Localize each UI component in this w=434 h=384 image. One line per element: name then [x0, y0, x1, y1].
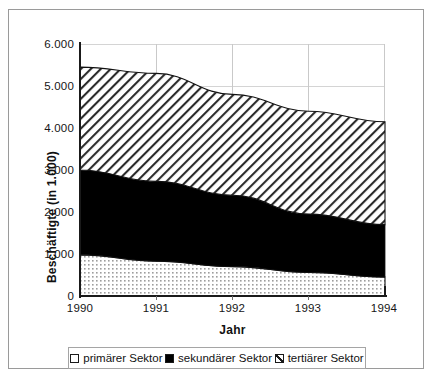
x-tick-mark-1991	[156, 296, 157, 300]
legend-item-sekundaerer-sektor[interactable]: sekundärer Sektor	[165, 352, 272, 364]
y-tick-0: 0	[67, 290, 74, 302]
y-tick-6000: 6.000	[44, 38, 74, 50]
y-axis-title: Beschäftigte (in 1.000)	[45, 112, 59, 322]
y-axis-title-holder: Beschäftigte (in 1.000)	[24, 60, 44, 260]
x-tick-1990: 1990	[50, 302, 110, 314]
x-tick-mark-1992	[232, 296, 233, 300]
area-series-group	[80, 67, 385, 296]
x-axis-line	[79, 295, 387, 297]
legend-label-sekundaerer-sektor: sekundärer Sektor	[178, 352, 272, 364]
empty-square-icon	[70, 354, 79, 363]
chart-legend: primärer Sektor sekundärer Sektor tertiä…	[68, 347, 366, 369]
legend-label-primaerer-sektor: primärer Sektor	[83, 352, 162, 364]
x-axis-title: Jahr	[80, 323, 385, 337]
y-axis-line	[79, 42, 81, 298]
hatched-square-icon	[275, 354, 284, 363]
x-axis-right-cap	[384, 286, 386, 297]
x-tick-1993: 1993	[278, 302, 338, 314]
x-tick-1992: 1992	[202, 302, 262, 314]
x-tick-1994: 1994	[354, 302, 414, 314]
x-tick-1991: 1991	[126, 302, 186, 314]
legend-item-primaerer-sektor[interactable]: primärer Sektor	[70, 352, 162, 364]
y-tick-5000: 5.000	[44, 80, 74, 92]
chart-figure: 6.000 5.000 4.000 3.000 2.000 1.000 0 19…	[0, 0, 434, 384]
filled-square-icon	[165, 354, 174, 363]
x-tick-mark-1993	[308, 296, 309, 300]
legend-label-tertiaerer-sektor: tertiärer Sektor	[288, 352, 364, 364]
legend-item-tertiaerer-sektor[interactable]: tertiärer Sektor	[275, 352, 364, 364]
